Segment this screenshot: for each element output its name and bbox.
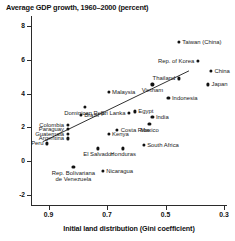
chart-container: Average GDP growth, 1960–2000 (percent) … — [0, 0, 235, 241]
data-point-label: Nicaragua — [106, 168, 133, 174]
data-point-label: South Africa — [147, 142, 179, 148]
data-point-label: Malaysia — [112, 89, 135, 95]
data-point-label: El Salvador — [83, 151, 113, 157]
x-tick: 0.3 — [224, 206, 225, 210]
data-point-label: Rep. Bolivarianade Venezuela — [52, 170, 95, 183]
data-point-label: Honduras — [110, 151, 136, 157]
x-tick: 0.5 — [166, 206, 167, 210]
x-tick-label: 0.5 — [161, 211, 170, 218]
data-point-label: Peru — [31, 140, 43, 146]
data-point-label: China — [214, 68, 229, 74]
x-tick-label: 0.9 — [44, 211, 53, 218]
y-tick-label: 6 — [21, 56, 25, 63]
y-tick-label: 8 — [21, 22, 25, 29]
y-tick-label: 0 — [21, 157, 25, 164]
data-point-label: Thailand — [153, 75, 176, 81]
x-tick: 0.9 — [49, 206, 50, 210]
y-tick-label: 2 — [21, 123, 25, 130]
data-point-label: Brazil — [84, 112, 99, 118]
chart-title: Average GDP growth, 1960–2000 (percent) — [6, 3, 148, 12]
x-axis-line — [31, 205, 227, 206]
y-tick-label: -2 — [19, 191, 25, 198]
data-point-label: Vietnam — [142, 87, 164, 93]
x-tick-label: 0.3 — [219, 211, 228, 218]
y-tick-label: 4 — [21, 90, 25, 97]
x-axis-title: Initial land distribution (Gini coeffici… — [31, 224, 227, 233]
x-tick-label: 0.7 — [102, 211, 111, 218]
data-point-label: Sri Lanka — [101, 110, 126, 116]
plot-area: Taiwan (China)Rep. of KoreaChinaThailand… — [31, 16, 227, 205]
data-point-label: Kenya — [112, 131, 129, 137]
data-point-label: Japan — [211, 81, 227, 87]
data-point-label: Egypt — [138, 108, 153, 114]
data-point-label: India — [156, 114, 169, 120]
data-point-label: Rep. of Korea — [158, 58, 194, 64]
x-tick: 0.7 — [107, 206, 108, 210]
data-point-label: Indonesia — [172, 95, 198, 101]
data-point-label: Taiwan (China) — [182, 39, 221, 45]
